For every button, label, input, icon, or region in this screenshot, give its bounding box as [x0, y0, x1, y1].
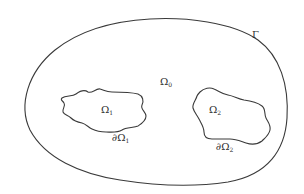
subdomain-2-boundary	[193, 88, 270, 144]
outer-boundary-curve	[25, 19, 287, 186]
outer-region-label: Ω0	[160, 76, 172, 88]
outer-boundary-label: Γ	[252, 29, 259, 40]
subdomain-1-boundary-label: ∂Ω1	[112, 132, 129, 144]
domain-diagram: Γ Ω0 Ω1 ∂Ω1 Ω2 ∂Ω2	[0, 0, 304, 194]
subdomain-1-label: Ω1	[101, 104, 113, 116]
subdomain-2-label: Ω2	[209, 104, 221, 116]
subdomain-2-boundary-label: ∂Ω2	[216, 141, 233, 153]
